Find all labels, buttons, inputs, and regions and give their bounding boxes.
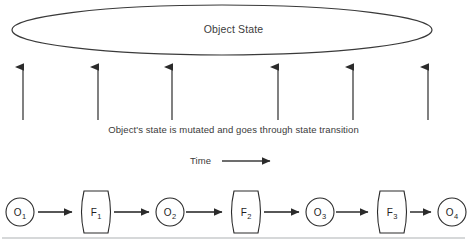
node-letter-f1: F [91, 207, 97, 218]
object-state-label: Object State [0, 23, 467, 35]
node-letter-o4: O [446, 207, 454, 218]
node-index-o2: 2 [172, 211, 176, 220]
node-label-f3: F3 [387, 207, 398, 218]
node-index-o1: 1 [22, 211, 26, 220]
node-label-o3: O3 [314, 207, 326, 218]
mutation-caption: Object's state is mutated and goes throu… [0, 124, 467, 135]
node-label-o1: O1 [14, 207, 26, 218]
node-index-f1: 1 [97, 211, 101, 220]
node-label-f2: F2 [241, 207, 252, 218]
node-index-f3: 3 [393, 211, 397, 220]
node-index-o4: 4 [454, 211, 458, 220]
node-index-f2: 2 [247, 211, 251, 220]
node-letter-o3: O [314, 207, 322, 218]
diagram-canvas: Object State Object's state is mutated a… [0, 0, 467, 249]
node-letter-o1: O [14, 207, 22, 218]
node-letter-o2: O [164, 207, 172, 218]
node-label-o4: O4 [446, 207, 458, 218]
node-letter-f2: F [241, 207, 247, 218]
time-axis-label: Time [190, 155, 211, 166]
node-letter-f3: F [387, 207, 393, 218]
node-label-f1: F1 [91, 207, 102, 218]
mutation-arrow-group [23, 67, 428, 120]
node-index-o3: 3 [322, 211, 326, 220]
node-label-o2: O2 [164, 207, 176, 218]
